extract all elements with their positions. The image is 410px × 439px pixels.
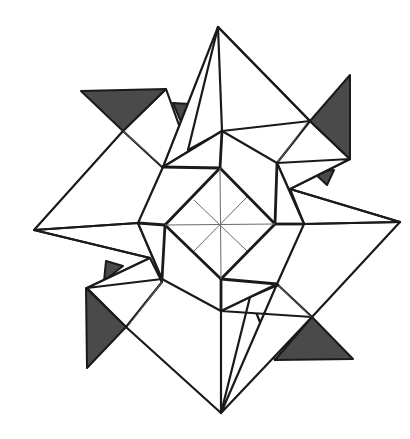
origami-star-diagram — [0, 0, 410, 439]
